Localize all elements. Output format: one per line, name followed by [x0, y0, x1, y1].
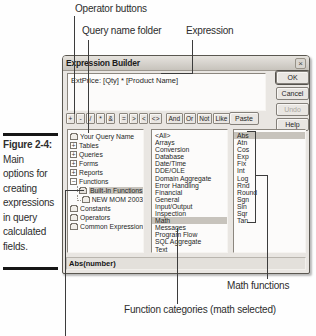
category-item[interactable]: Text [152, 246, 227, 253]
figure-caption-label: Figure 2-4: [3, 138, 63, 153]
function-item[interactable]: Cos [234, 146, 305, 153]
dialog-title: Expression Builder [66, 58, 140, 68]
tree-item-label: Your Query Name [80, 133, 134, 140]
category-item[interactable]: Financial [152, 189, 227, 196]
expand-plus-icon[interactable]: + [70, 142, 77, 149]
tree-item-label: Common Expressions [80, 223, 144, 230]
tree-item-operators[interactable]: Operators [68, 213, 143, 222]
callout-bracket-tick-bottom [247, 222, 256, 223]
operator-notequal-button[interactable]: <> [149, 113, 162, 124]
category-item[interactable]: <All> [152, 132, 227, 139]
function-item[interactable]: Log [234, 175, 305, 182]
callout-math-functions: Math functions [227, 280, 289, 291]
callout-bracket-math-functions [255, 131, 256, 223]
operator-and-button[interactable]: And [166, 113, 183, 124]
callout-expression: Expression [186, 25, 233, 36]
operator-button-row: + - / * & = > < <> And Or Not Like ( ) [66, 112, 246, 125]
ok-button[interactable]: OK [276, 71, 309, 84]
folder-icon [70, 224, 78, 230]
tree-item-reports[interactable]: + Reports [68, 168, 143, 177]
expand-plus-icon[interactable]: + [70, 151, 77, 158]
collapse-minus-icon[interactable]: − [70, 178, 77, 185]
function-item[interactable]: Int [234, 167, 305, 174]
function-item[interactable]: Round [234, 189, 305, 196]
tree-item-constants[interactable]: Constants [68, 204, 143, 213]
function-item[interactable]: Rnd [234, 182, 305, 189]
callout-line-expression-vertical [192, 40, 193, 74]
operator-like-button[interactable]: Like [213, 113, 230, 124]
operator-less-button[interactable]: < [139, 113, 148, 124]
figure-caption: Figure 2-4: Main options for creating ex… [3, 138, 63, 254]
category-item[interactable]: Conversion [152, 146, 227, 153]
operator-minus-button[interactable]: - [76, 113, 85, 124]
category-item-selected[interactable]: Math [152, 217, 227, 224]
category-item[interactable]: General [152, 196, 227, 203]
folder-icon [70, 134, 78, 140]
category-item[interactable]: Program Flow [152, 231, 227, 238]
element-tree-list[interactable]: Your Query Name + Tables + Queries + For… [67, 129, 144, 253]
paste-button[interactable]: Paste [229, 112, 259, 125]
function-item[interactable]: Sgn [234, 196, 305, 203]
figure-caption-line: Main [3, 153, 63, 168]
tree-item-label: Forms [79, 160, 98, 167]
expression-builder-dialog: Expression Builder × ExtPrice: [Qty] * [… [62, 55, 310, 274]
tree-item-your-query-name[interactable]: Your Query Name [68, 132, 143, 141]
operator-or-button[interactable]: Or [184, 113, 196, 124]
callout-line-categories [177, 228, 178, 304]
tree-item-label: Reports [79, 169, 103, 176]
function-item[interactable]: Sin [234, 203, 305, 210]
figure-caption-line: options for [3, 167, 63, 182]
tree-item-label: Queries [79, 151, 103, 158]
undo-button: Undo [276, 103, 309, 116]
callout-line-builtin-horizontal [65, 190, 84, 191]
function-item[interactable]: Sqr [234, 210, 305, 217]
figure-caption-line: in query [3, 211, 63, 226]
operator-concat-button[interactable]: & [106, 113, 115, 124]
operator-greater-button[interactable]: > [129, 113, 138, 124]
function-item[interactable]: Fix [234, 160, 305, 167]
dialog-titlebar[interactable]: Expression Builder × [63, 56, 309, 71]
tree-item-label: Constants [80, 205, 111, 212]
expression-input[interactable]: ExtPrice: [Qty] * [Product Name] [67, 73, 266, 111]
tree-item-queries[interactable]: + Queries [68, 150, 143, 159]
callout-line-query-name-folder [88, 40, 89, 133]
expand-plus-icon[interactable]: + [70, 160, 77, 167]
callout-operator-buttons: Operator buttons [75, 3, 147, 14]
expand-plus-icon[interactable]: + [70, 169, 77, 176]
category-item[interactable]: DDE/OLE [152, 167, 227, 174]
function-item-selected[interactable]: Abs [234, 132, 305, 139]
category-item[interactable]: Date/Time [152, 160, 227, 167]
operator-plus-button[interactable]: + [66, 113, 75, 124]
figure-caption-line: calculated [3, 225, 63, 240]
category-item[interactable]: Messages [152, 224, 227, 231]
figure-caption-line: fields. [3, 240, 63, 255]
tree-item-tables[interactable]: + Tables [68, 141, 143, 150]
operator-multiply-button[interactable]: * [96, 113, 105, 124]
tree-item-functions[interactable]: − Functions [68, 177, 143, 186]
tree-item-common-expressions[interactable]: Common Expressions [68, 222, 143, 231]
category-item[interactable]: SQL Aggregate [152, 238, 227, 245]
function-category-list[interactable]: <All> Arrays Conversion Database Date/Ti… [151, 129, 228, 253]
folder-icon [82, 197, 90, 203]
category-item[interactable]: Error Handling [152, 182, 227, 189]
function-item[interactable]: Tan [234, 217, 305, 224]
close-icon[interactable]: × [295, 58, 306, 69]
figure-page: Operator buttons Query name folder Expre… [0, 0, 316, 336]
category-item[interactable]: Database [152, 153, 227, 160]
operator-not-button[interactable]: Not [197, 113, 212, 124]
category-item[interactable]: Input/Output [152, 203, 227, 210]
function-list[interactable]: Abs Atn Cos Exp Fix Int Log Rnd Round Sg… [233, 129, 306, 253]
category-item[interactable]: Domain Aggregate [152, 175, 227, 182]
tree-item-new-mom-2003[interactable]: NEW MOM 2003 [68, 195, 143, 204]
function-item[interactable]: Exp [234, 153, 305, 160]
callout-query-name-folder: Query name folder [82, 25, 161, 36]
operator-equals-button[interactable]: = [119, 113, 128, 124]
category-item[interactable]: Inspection [152, 210, 227, 217]
cancel-button[interactable]: Cancel [276, 87, 309, 100]
function-item[interactable]: Atn [234, 139, 305, 146]
figure-caption-line: expressions [3, 196, 63, 211]
tree-item-label: Built-In Functions [89, 187, 144, 194]
tree-item-forms[interactable]: + Forms [68, 159, 143, 168]
category-item[interactable]: Arrays [152, 139, 227, 146]
tree-connector [77, 195, 81, 201]
